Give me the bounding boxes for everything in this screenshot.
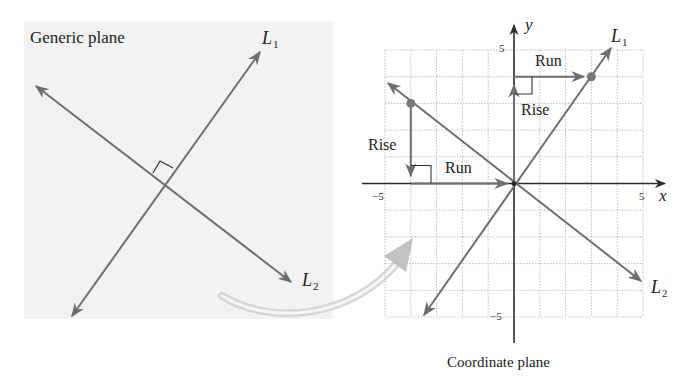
y-tick-min: −5: [490, 311, 502, 322]
x-axis-label: x: [659, 187, 667, 204]
l1-right-angle-marker: [514, 77, 532, 94]
generic-l2-subscript: 2: [313, 280, 319, 292]
generic-plane-title: Generic plane: [30, 29, 125, 46]
coordinate-plane-panel: [362, 25, 665, 343]
coordinate-l1-label: L1: [611, 27, 628, 48]
l1-point: [587, 72, 596, 81]
generic-l2-letter: L: [302, 270, 312, 290]
l2-run-label: Run: [445, 160, 472, 176]
coordinate-l1-letter: L: [611, 26, 621, 46]
generic-l1-label: L1: [262, 29, 279, 50]
l1-rise-label: Rise: [521, 102, 549, 118]
generic-plane-background: [24, 21, 333, 319]
x-tick-max: 5: [639, 191, 645, 202]
coordinate-l2-letter: L: [651, 277, 661, 297]
l2-point: [406, 99, 415, 108]
generic-plane-panel: [24, 21, 333, 319]
coordinate-plane-caption: Coordinate plane: [447, 355, 550, 370]
generic-l1-letter: L: [262, 28, 272, 48]
coordinate-l2-label: L2: [651, 278, 668, 299]
perpendicular-lines-figure: Generic plane L1 L2 y x 5 −5 −5 5 L1 L2 …: [0, 0, 698, 376]
x-tick-min: −5: [372, 191, 384, 202]
l2-rise-label: Rise: [368, 137, 396, 153]
coordinate-l1-subscript: 1: [622, 36, 628, 48]
y-tick-max: 5: [499, 43, 505, 54]
generic-l2-label: L2: [302, 271, 319, 292]
generic-l1-subscript: 1: [273, 38, 279, 50]
l1-run-label: Run: [535, 53, 562, 69]
l2-right-angle-marker: [411, 166, 431, 184]
coordinate-l2-subscript: 2: [662, 287, 668, 299]
coordinate-line-l1: [424, 48, 611, 315]
y-axis-label: y: [525, 16, 533, 33]
origin-point: [512, 181, 517, 186]
